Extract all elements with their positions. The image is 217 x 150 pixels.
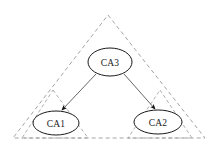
diagram-canvas: CA3 CA1 CA2 (0, 0, 217, 150)
node-ca1-label: CA1 (47, 119, 66, 129)
node-ca3[interactable]: CA3 (88, 48, 132, 76)
edge-ca3-to-ca1 (62, 74, 96, 110)
node-ca1[interactable]: CA1 (33, 111, 79, 135)
ca-hierarchy-diagram: CA3 CA1 CA2 (0, 0, 217, 150)
edge-ca3-to-ca2 (124, 74, 155, 109)
node-ca3-label: CA3 (101, 58, 120, 68)
node-ca2-label: CA2 (149, 118, 168, 128)
node-ca2[interactable]: CA2 (134, 110, 182, 134)
